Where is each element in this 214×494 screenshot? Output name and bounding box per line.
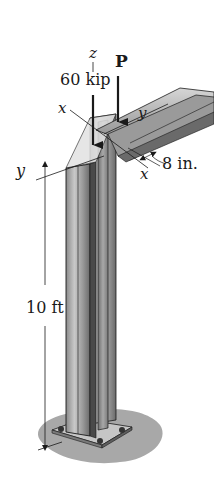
column	[66, 114, 116, 438]
label-height-10ft: 10 ft	[26, 298, 64, 317]
label-load-60kip: 60 kip	[60, 70, 111, 89]
label-offset-8in: 8 in.	[162, 154, 198, 173]
label-load-p: P	[115, 51, 128, 71]
column-diagram: z P 60 kip x y y x 8 in. 10 ft	[0, 0, 214, 494]
anchor-bolt-icon	[58, 426, 64, 432]
label-axis-x-top: x	[58, 99, 67, 117]
anchor-bolt-icon	[97, 438, 103, 444]
label-axis-y-left: y	[15, 161, 26, 180]
label-axis-z: z	[88, 44, 97, 62]
label-axis-x-bottom: x	[140, 165, 149, 183]
anchor-bolt-icon	[119, 427, 125, 433]
label-axis-y-beam: y	[137, 104, 147, 122]
